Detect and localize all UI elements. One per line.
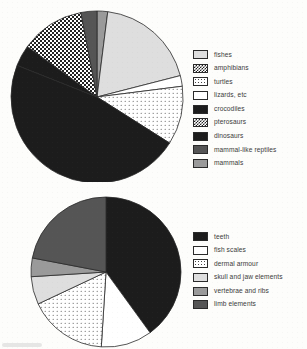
pie-tetrapod-taxa <box>0 0 190 182</box>
legend-item-lizards-etc[interactable]: lizards, etc <box>193 89 276 103</box>
legend-swatch-icon <box>193 105 208 114</box>
legend-item-turtles[interactable]: turtles <box>193 75 276 89</box>
legend-swatch-icon <box>193 132 208 141</box>
legend-item-label: fishes <box>214 52 232 59</box>
legend-item-teeth[interactable]: teeth <box>193 230 283 244</box>
legend-swatch-icon <box>193 273 208 282</box>
legend-item-label: amphibians <box>214 65 249 72</box>
legend-item-dinosaurs[interactable]: dinosaurs <box>193 130 276 144</box>
legend-item-amphibians[interactable]: amphibians <box>193 62 276 76</box>
figure-two-pie-charts: fishesamphibiansturtleslizards, etccroco… <box>0 0 307 349</box>
chart-tetrapod-taxa: fishesamphibiansturtleslizards, etccroco… <box>0 0 307 182</box>
legend-swatch-icon <box>193 118 208 127</box>
legend-item-vertebrae-and-ribs[interactable]: vertebrae and ribs <box>193 284 283 298</box>
legend-item-label: turtles <box>214 79 233 86</box>
legend-item-fish-scales[interactable]: fish scales <box>193 244 283 258</box>
legend-swatch-icon <box>193 159 208 168</box>
legend-item-label: mammals <box>214 160 243 167</box>
legend-item-mammals[interactable]: mammals <box>193 157 276 171</box>
legend-item-label: fish scales <box>214 247 246 254</box>
legend-item-fishes[interactable]: fishes <box>193 48 276 62</box>
legend-swatch-icon <box>193 287 208 296</box>
legend-swatch-icon <box>193 50 208 59</box>
legend-swatch-icon <box>193 77 208 86</box>
legend-skeletal-elements: teethfish scalesdermal armourskull and j… <box>193 230 283 312</box>
legend-item-label: skull and jaw elements <box>214 274 283 281</box>
legend-item-mammal-like-reptiles[interactable]: mammal-like reptiles <box>193 143 276 157</box>
legend-item-label: teeth <box>214 234 229 241</box>
legend-item-label: dinosaurs <box>214 133 244 140</box>
legend-item-label: dermal armour <box>214 261 258 268</box>
legend-item-label: mammal-like reptiles <box>214 147 276 154</box>
legend-item-skull-and-jaw-elements[interactable]: skull and jaw elements <box>193 271 283 285</box>
legend-item-label: limb elements <box>214 301 256 308</box>
legend-item-label: vertebrae and ribs <box>214 288 269 295</box>
scan-edge-artifact <box>2 343 42 347</box>
legend-swatch-icon <box>193 64 208 73</box>
legend-swatch-icon <box>193 91 208 100</box>
legend-swatch-icon <box>193 300 208 309</box>
legend-item-label: lizards, etc <box>214 92 247 99</box>
legend-swatch-icon <box>193 145 208 154</box>
legend-swatch-icon <box>193 246 208 255</box>
pie-skeletal-elements <box>0 182 190 349</box>
legend-item-crocodiles[interactable]: crocodiles <box>193 102 276 116</box>
legend-item-dermal-armour[interactable]: dermal armour <box>193 257 283 271</box>
legend-swatch-icon <box>193 259 208 268</box>
chart-skeletal-elements: teethfish scalesdermal armourskull and j… <box>0 182 307 349</box>
legend-item-limb-elements[interactable]: limb elements <box>193 298 283 312</box>
legend-item-pterosaurs[interactable]: pterosaurs <box>193 116 276 130</box>
legend-item-label: crocodiles <box>214 106 245 113</box>
legend-tetrapod-taxa: fishesamphibiansturtleslizards, etccroco… <box>193 48 276 170</box>
legend-swatch-icon <box>193 232 208 241</box>
legend-item-label: pterosaurs <box>214 119 246 126</box>
